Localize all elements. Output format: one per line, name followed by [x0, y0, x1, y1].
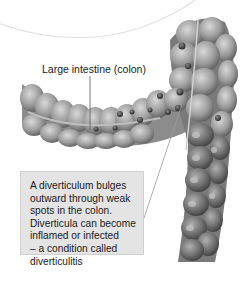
colon-label: Large intestine (colon)	[42, 63, 146, 75]
callout-line: inflamed or infected	[30, 230, 137, 243]
colon-illustration: Large intestine (colon) A diverticulum b…	[0, 0, 241, 291]
background-arc	[0, 0, 195, 38]
callout-line: A diverticulum bulges	[30, 180, 137, 193]
callout-line: outward through weak	[30, 193, 137, 206]
callout-line: spots in the colon.	[30, 205, 137, 218]
descending-colon	[164, 17, 238, 262]
callout-line: diverticulitis	[30, 256, 137, 269]
diverticulum-callout-box: A diverticulum bulges outward through we…	[20, 171, 144, 255]
callout-line: – a condition called	[30, 243, 137, 256]
callout-line: Diverticula can become	[30, 218, 137, 231]
transverse-colon	[20, 84, 190, 149]
